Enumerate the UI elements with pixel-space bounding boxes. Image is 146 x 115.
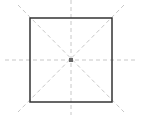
center-point xyxy=(69,58,73,62)
diagram-canvas xyxy=(0,0,146,115)
